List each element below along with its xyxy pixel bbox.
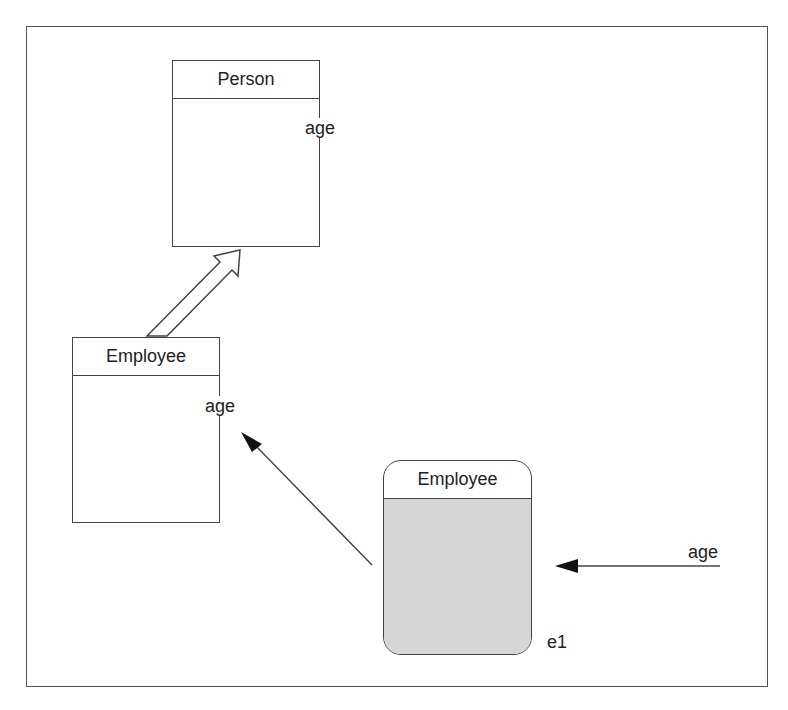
message-arrow-icon [555, 559, 720, 573]
inheritance-arrow-icon [147, 250, 240, 336]
connectors [0, 0, 788, 710]
instance-of-arrow-icon [241, 432, 372, 565]
